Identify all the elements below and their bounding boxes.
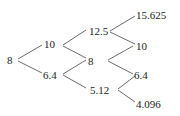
- node-level1-up: 10: [44, 38, 55, 50]
- node-level2-dd: 5.12: [90, 84, 109, 96]
- node-root: 8: [7, 54, 13, 66]
- node-level3-uuu: 15.625: [136, 9, 166, 21]
- node-level3-udd: 6.4: [134, 69, 148, 81]
- node-level3-uud: 10: [136, 40, 147, 52]
- node-level2-ud: 8: [88, 55, 94, 67]
- node-level3-ddd: 4.096: [136, 98, 161, 110]
- binomial-tree-diagram: 8 10 6.4 12.5 8 5.12 15.625 10 6.4 4.096: [0, 0, 180, 116]
- node-level2-uu: 12.5: [89, 25, 108, 37]
- node-level1-down: 6.4: [43, 69, 57, 81]
